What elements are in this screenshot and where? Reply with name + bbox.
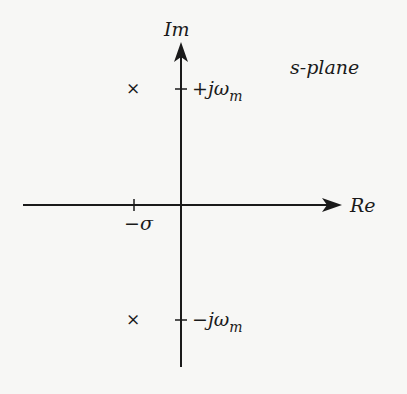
tick-label-pos-jwm: +jωm <box>192 79 243 98</box>
tick-label-neg-jwm-main: −jω <box>192 308 229 330</box>
tick-label-pos-jwm-main: +jω <box>192 77 229 99</box>
real-axis-label: Re <box>350 196 376 215</box>
pole-marker-upper: × <box>126 80 140 97</box>
imag-axis-label: Im <box>164 20 190 39</box>
tick-label-neg-jwm-sub: m <box>229 319 242 335</box>
tick-label-neg-jwm: −jωm <box>192 310 243 329</box>
tick-label-pos-jwm-sub: m <box>229 88 242 104</box>
plane-title: s-plane <box>290 58 359 77</box>
tick-label-neg-sigma: −σ <box>124 214 153 233</box>
pole-marker-lower: × <box>126 311 140 328</box>
